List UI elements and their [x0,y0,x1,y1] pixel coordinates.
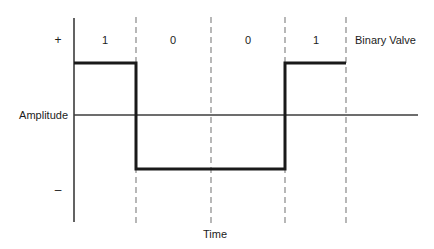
positive-sign-label: + [54,33,61,47]
binary-valve-waveform-figure: + – 1 0 0 1 Amplitude Time Binary Valve [0,0,434,249]
binary-signal-trace [74,63,346,169]
bit-label-3: 0 [245,34,251,46]
negative-sign-label: – [55,183,62,197]
waveform-chart: + – 1 0 0 1 Amplitude Time Binary Valve [0,0,434,249]
bit-label-4: 1 [313,34,319,46]
bit-label-1: 1 [102,34,108,46]
y-axis-label: Amplitude [19,109,68,121]
x-axis-label: Time [203,228,227,240]
bit-label-2: 0 [170,34,176,46]
series-name-label: Binary Valve [355,34,416,46]
